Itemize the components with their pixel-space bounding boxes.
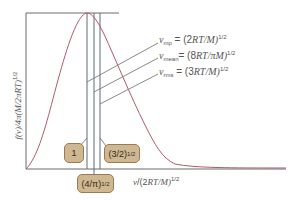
vmean-ratio-box: (4/π)1/2	[77, 174, 114, 193]
vmp-sub: mp	[163, 40, 171, 46]
xlabel-rt: RT	[148, 177, 159, 187]
vmp-ratio-box: 1	[64, 143, 84, 163]
vrms-leader	[100, 74, 158, 104]
vmp-eq: = (2	[172, 34, 192, 45]
vrms-m: /M)	[205, 66, 219, 77]
vmean-rt: RT	[196, 50, 208, 61]
vmean-formula: vmean= (8RT/πM)1/2	[159, 50, 235, 62]
vmean-m: /πM)	[208, 50, 227, 61]
vrms-exp: 1/2	[220, 66, 228, 72]
vrms-sub: rms	[163, 72, 173, 78]
vrms-formula: vrms = (3RT/M)1/2	[159, 66, 228, 78]
vrms-ratio: (3/2)	[109, 149, 128, 159]
vmean-ratio: (4/π)	[81, 179, 101, 189]
xlabel-exp: 1/2	[171, 176, 179, 182]
vmp-ratio: 1	[71, 148, 76, 158]
vrms-ratio-box: (3/2)1/2	[104, 144, 140, 163]
vmp-m: /M)	[204, 34, 218, 45]
y-axis-label: f(v)/4π(M/2πRT)1/2	[12, 51, 23, 161]
vmp-rt: RT	[192, 34, 204, 45]
vmean-ratio-exp: 1/2	[101, 181, 109, 187]
xlabel-b: /(2	[137, 177, 148, 187]
x-axis-label: v/(2RT/M)1/2	[133, 176, 179, 187]
vmean-sub: mean	[163, 56, 178, 62]
vrms-rt: RT	[194, 66, 206, 77]
vmean-leader	[94, 58, 158, 92]
vmean-eq: = (8	[178, 50, 196, 61]
ylabel-f: f(v)	[13, 127, 23, 140]
vrms-eq: = (3	[173, 66, 193, 77]
vmp-formula: vmp = (2RT/M)1/2	[159, 34, 227, 46]
xlabel-m: /M)	[158, 177, 171, 187]
ylabel-exp: 1/2	[12, 72, 18, 80]
vmean-exp: 1/2	[227, 50, 235, 56]
vrms-ratio-exp: 1/2	[127, 151, 135, 157]
ylabel-norm: /4π(M/2πRT)	[13, 80, 23, 127]
vmp-exp: 1/2	[218, 34, 226, 40]
chart-canvas	[0, 0, 290, 200]
